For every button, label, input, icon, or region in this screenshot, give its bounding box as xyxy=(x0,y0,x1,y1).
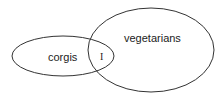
corgis-label: corgis xyxy=(48,51,78,63)
venn-diagram: corgis vegetarians I xyxy=(0,0,224,95)
vegetarians-set-ellipse xyxy=(88,8,214,92)
vegetarians-label: vegetarians xyxy=(124,32,181,44)
intersection-label: I xyxy=(100,51,103,62)
